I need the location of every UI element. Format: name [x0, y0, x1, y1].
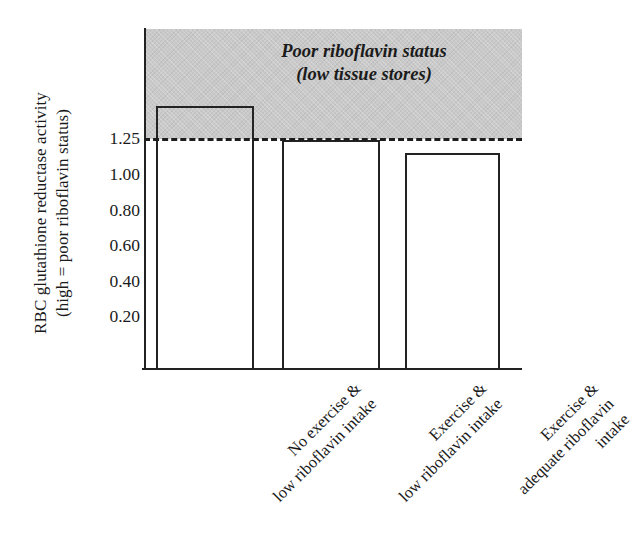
shaded-region-annotation: Poor riboflavin status (low tissue store…: [214, 40, 514, 86]
x-tick-label-exercise-low-riboflavin: Exercise & low riboflavin intake: [379, 378, 508, 507]
y-axis-line: [144, 28, 146, 369]
y-tick-label-0-60: 0.60: [82, 237, 140, 255]
bar-exercise-adequate-riboflavin: [405, 153, 500, 369]
threshold-dashed-line-1-25: [144, 138, 522, 141]
y-axis-tick-labels: 1.25 1.00 0.80 0.60 0.40 0.20: [80, 0, 140, 548]
y-axis-title-line1: RBC glutathione reductase activity: [30, 92, 52, 334]
plot-area: Poor riboflavin status (low tissue store…: [144, 28, 522, 368]
y-tick-label-0-20: 0.20: [82, 308, 140, 326]
annotation-line1: Poor riboflavin status: [214, 40, 514, 63]
y-tick-label-1-25: 1.25: [82, 130, 140, 148]
x-tick-label-no-exercise-low-riboflavin: No exercise & low riboflavin intake: [253, 378, 382, 507]
y-tick-label-0-80: 0.80: [82, 202, 140, 220]
x-axis-line: [142, 368, 522, 370]
y-axis-title-line2: (high = poor riboflavin status): [52, 109, 74, 317]
bar-exercise-low-riboflavin: [282, 140, 380, 369]
annotation-line2: (low tissue stores): [214, 63, 514, 86]
y-tick-label-1-00: 1.00: [82, 166, 140, 184]
x-tick-label-exercise-adequate-riboflavin: Exercise & adequate riboflavin intake: [497, 378, 634, 515]
y-axis-title: RBC glutathione reductase activity (high…: [24, 33, 80, 393]
bar-no-exercise-low-riboflavin: [156, 106, 254, 369]
y-tick-label-0-40: 0.40: [82, 273, 140, 291]
